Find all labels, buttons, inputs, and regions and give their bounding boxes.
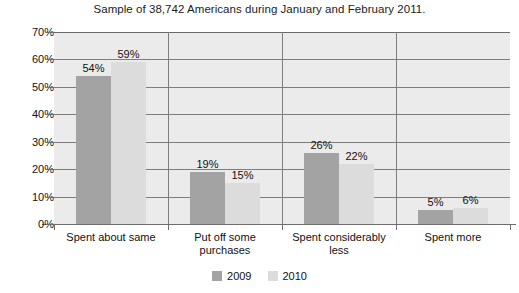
x-axis-tick-mark	[54, 224, 55, 230]
legend-label: 2009	[227, 270, 251, 282]
y-axis-tick-mark	[46, 224, 54, 225]
category-separator	[168, 32, 169, 224]
legend-swatch-icon-2009	[212, 271, 222, 281]
bar-chart: Sample of 38,742 Americans during Januar…	[0, 0, 519, 293]
x-axis-tick-mark	[282, 224, 283, 230]
bar-value-label: 22%	[333, 150, 380, 162]
x-axis-category-label: Spent about same	[54, 231, 168, 244]
x-axis-category-line: Spent about same	[54, 231, 168, 244]
x-axis-category-label: Spent more	[396, 231, 510, 244]
y-axis-tick-mark	[46, 142, 54, 143]
bar-2009-4	[418, 210, 453, 224]
bar-2010-2	[225, 183, 260, 224]
bar-value-label: 59%	[105, 48, 152, 60]
chart-legend: 20092010	[0, 270, 519, 282]
x-axis-category-line: Spent more	[396, 231, 510, 244]
y-axis-tick-mark	[46, 197, 54, 198]
plot-area	[54, 32, 510, 224]
bar-2009-1	[76, 76, 111, 224]
legend-label: 2010	[283, 270, 307, 282]
category-separator	[396, 32, 397, 224]
bar-value-label: 6%	[447, 194, 494, 206]
x-axis-spine	[42, 224, 516, 225]
bar-2010-4	[453, 208, 488, 224]
x-axis-category-label: Put off somepurchases	[168, 231, 282, 256]
bar-value-label: 15%	[219, 169, 266, 181]
y-axis-tick-mark	[46, 59, 54, 60]
legend-item-2010[interactable]: 2010	[268, 270, 307, 282]
bar-2010-3	[339, 164, 374, 224]
category-separator	[282, 32, 283, 224]
bar-2009-3	[304, 153, 339, 224]
x-axis-tick-mark	[168, 224, 169, 230]
y-axis-tick-mark	[46, 87, 54, 88]
x-axis-category-line: Spent considerably	[282, 231, 396, 244]
y-axis-tick-mark	[46, 169, 54, 170]
bar-2010-1	[111, 62, 146, 224]
y-axis-tick-mark	[46, 114, 54, 115]
x-axis-category-line: purchases	[168, 244, 282, 257]
y-axis-tick-mark	[46, 32, 54, 33]
bar-value-label: 54%	[70, 62, 117, 74]
x-axis-tick-mark	[510, 224, 511, 230]
x-axis-tick-mark	[396, 224, 397, 230]
legend-item-2009[interactable]: 2009	[212, 270, 251, 282]
chart-title: Sample of 38,742 Americans during Januar…	[0, 3, 519, 15]
x-axis-category-label: Spent considerablyless	[282, 231, 396, 256]
x-axis-category-line: Put off some	[168, 231, 282, 244]
x-axis-category-line: less	[282, 244, 396, 257]
legend-swatch-icon-2010	[268, 271, 278, 281]
